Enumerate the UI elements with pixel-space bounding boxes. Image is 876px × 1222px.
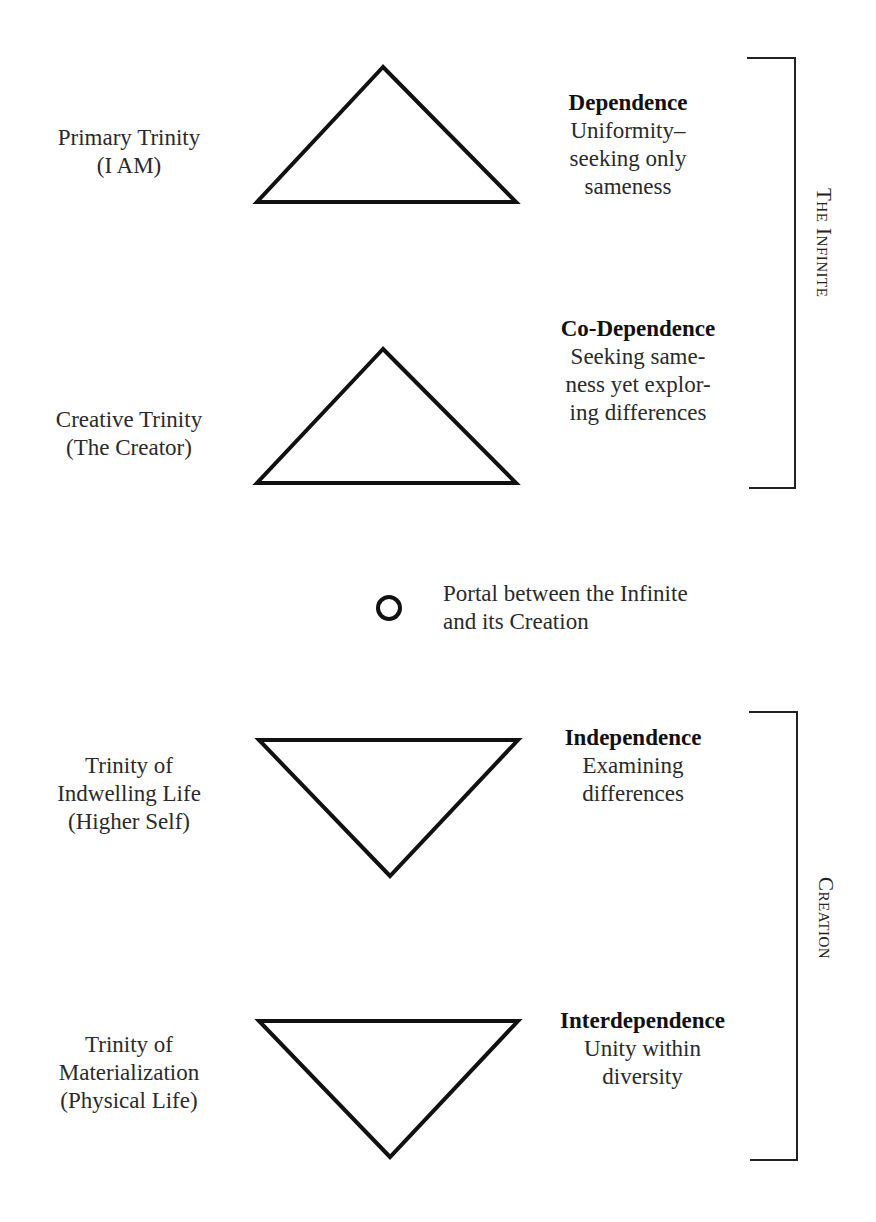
level-title: Dependence <box>528 89 728 117</box>
level-2-left-label: Creative Trinity (The Creator) <box>20 406 238 462</box>
label-line: Trinity of <box>20 752 238 780</box>
label-line: (The Creator) <box>20 434 238 462</box>
desc-line: ing differences <box>528 399 748 427</box>
level-2-right-label: Co-Dependence Seeking same- ness yet exp… <box>528 315 748 427</box>
label-line: (Higher Self) <box>20 808 238 836</box>
label-line: Indwelling Life <box>20 780 238 808</box>
desc-line: seeking only <box>528 145 728 173</box>
triangle-down-icon <box>259 740 518 876</box>
triangle-up-icon <box>257 67 516 202</box>
level-title: Independence <box>528 724 738 752</box>
level-3-left-label: Trinity of Indwelling Life (Higher Self) <box>20 752 238 836</box>
portal-line: and its Creation <box>443 608 773 636</box>
bracket-label-creation: Creation <box>813 877 838 959</box>
desc-line: Uniformity– <box>528 117 728 145</box>
portal-line: Portal between the Infinite <box>443 580 773 608</box>
label-line: Creative Trinity <box>20 406 238 434</box>
portal-label: Portal between the Infinite and its Crea… <box>443 580 773 636</box>
level-1-left-label: Primary Trinity (I AM) <box>20 124 238 180</box>
desc-line: differences <box>528 780 738 808</box>
desc-line: diversity <box>530 1063 755 1091</box>
label-line: (Physical Life) <box>20 1087 238 1115</box>
level-1-right-label: Dependence Uniformity– seeking only same… <box>528 89 728 201</box>
level-3-right-label: Independence Examining differences <box>528 724 738 808</box>
level-title: Interdependence <box>530 1007 755 1035</box>
bracket-label-infinite: The Infinite <box>811 188 836 297</box>
triangle-down-icon <box>259 1021 518 1157</box>
label-line: Materialization <box>20 1059 238 1087</box>
level-title: Co-Dependence <box>528 315 748 343</box>
label-line: Trinity of <box>20 1031 238 1059</box>
bracket-creation <box>749 712 797 1160</box>
desc-line: Seeking same- <box>528 343 748 371</box>
desc-line: Unity within <box>530 1035 755 1063</box>
bracket-infinite <box>747 58 795 488</box>
label-line: (I AM) <box>20 152 238 180</box>
desc-line: sameness <box>528 173 728 201</box>
label-line: Primary Trinity <box>20 124 238 152</box>
level-4-left-label: Trinity of Materialization (Physical Lif… <box>20 1031 238 1115</box>
portal-circle-icon <box>378 597 400 619</box>
level-4-right-label: Interdependence Unity within diversity <box>530 1007 755 1091</box>
desc-line: Examining <box>528 752 738 780</box>
triangle-up-icon <box>257 349 516 483</box>
desc-line: ness yet explor- <box>528 371 748 399</box>
